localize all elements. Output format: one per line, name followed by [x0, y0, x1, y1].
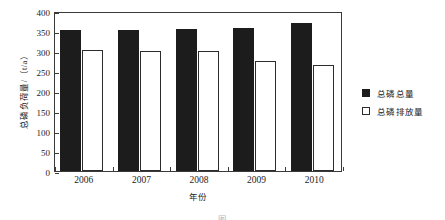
- y-axis-tick-mark: [55, 13, 59, 14]
- bar-group: [291, 13, 334, 171]
- y-axis-tick-mark: [55, 93, 59, 94]
- legend-label: 总磷排放量: [377, 105, 424, 117]
- x-axis-tick-mark: [170, 167, 171, 171]
- plot-area: 0501001502002503003504002006200720082009…: [54, 12, 342, 172]
- y-axis-tick-mark: [55, 53, 59, 54]
- x-axis-tick-mark: [113, 167, 114, 171]
- x-axis-tick-label-2006: 2006: [74, 175, 93, 185]
- y-axis-tick-label: 400: [37, 9, 56, 18]
- y-axis-tick-label: 250: [37, 69, 56, 78]
- bar-group: [60, 13, 103, 171]
- legend-label: 总磷总量: [377, 87, 414, 99]
- legend-item-discharge[interactable]: 总磷排放量: [362, 102, 445, 120]
- bar-2007-total[interactable]: [118, 30, 139, 171]
- y-axis-tick-label: 150: [37, 109, 56, 118]
- y-axis-tick-mark: [55, 113, 59, 114]
- bar-2006-discharge[interactable]: [82, 50, 103, 171]
- y-axis-title: 总磷负荷量/（t/a）: [17, 15, 29, 165]
- bar-2008-total[interactable]: [176, 29, 197, 171]
- y-axis-tick-label: 300: [37, 49, 56, 58]
- y-axis-tick-mark: [55, 133, 59, 134]
- x-axis-tick-label-2010: 2010: [305, 175, 324, 185]
- chart-figure: 总磷负荷量/（t/a） 0501001502002503003504002006…: [0, 0, 445, 220]
- chart-legend: 总磷总量总磷排放量: [362, 84, 445, 120]
- bar-2008-discharge[interactable]: [198, 51, 219, 171]
- y-axis-tick-mark: [55, 73, 59, 74]
- x-axis-tick-mark: [55, 167, 56, 171]
- x-axis-tick-mark: [343, 167, 344, 171]
- x-axis-tick-label-2009: 2009: [247, 175, 266, 185]
- x-axis-tick-mark: [285, 167, 286, 171]
- y-axis-tick-label: 350: [37, 29, 56, 38]
- filled-square-icon: [362, 89, 370, 97]
- y-axis-tick-mark: [55, 173, 59, 174]
- y-axis-tick-label: 200: [37, 89, 56, 98]
- legend-item-total[interactable]: 总磷总量: [362, 84, 445, 102]
- y-axis-tick-mark: [55, 153, 59, 154]
- bar-group: [233, 13, 276, 171]
- figure-caption: 图: [0, 212, 445, 220]
- y-axis-tick-label: 100: [37, 129, 56, 138]
- x-axis-tick-label-2008: 2008: [190, 175, 209, 185]
- x-axis-title: 年份: [54, 190, 342, 202]
- y-axis-tick-mark: [55, 33, 59, 34]
- bar-2010-discharge[interactable]: [313, 65, 334, 171]
- bar-2007-discharge[interactable]: [140, 51, 161, 171]
- bar-group: [118, 13, 161, 171]
- bar-2006-total[interactable]: [60, 30, 81, 171]
- bar-2009-discharge[interactable]: [255, 61, 276, 171]
- y-axis-tick-label: 0: [46, 169, 56, 178]
- bar-group: [176, 13, 219, 171]
- x-axis-tick-mark: [228, 167, 229, 171]
- hollow-square-icon: [362, 107, 370, 115]
- x-axis-tick-label-2007: 2007: [132, 175, 151, 185]
- y-axis-tick-label: 50: [41, 149, 55, 158]
- bar-2010-total[interactable]: [291, 23, 312, 171]
- bar-2009-total[interactable]: [233, 28, 254, 171]
